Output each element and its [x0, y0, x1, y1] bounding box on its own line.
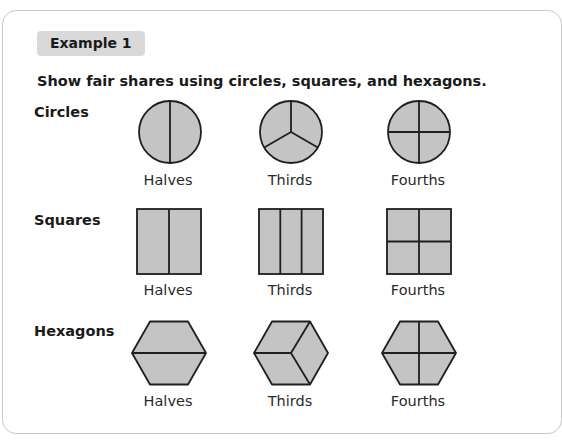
caption-hexagon-fourths: Fourths — [358, 393, 478, 409]
row-label-squares: Squares — [34, 212, 101, 228]
circle-fourths-shape — [386, 99, 452, 165]
caption-circle-fourths: Fourths — [358, 172, 478, 188]
caption-square-halves: Halves — [108, 282, 228, 298]
caption-hexagon-thirds: Thirds — [230, 393, 350, 409]
caption-circle-halves: Halves — [108, 172, 228, 188]
caption-square-thirds: Thirds — [230, 282, 350, 298]
instruction-text: Show fair shares using circles, squares,… — [37, 73, 487, 89]
hexagon-halves-shape — [131, 320, 207, 386]
row-label-circles: Circles — [34, 104, 89, 120]
circle-thirds-shape — [258, 99, 324, 165]
square-thirds-shape — [258, 208, 324, 276]
caption-hexagon-halves: Halves — [108, 393, 228, 409]
square-fourths-shape — [386, 208, 452, 276]
caption-circle-thirds: Thirds — [230, 172, 350, 188]
row-label-hexagons: Hexagons — [34, 323, 114, 339]
hexagon-fourths-shape — [381, 320, 457, 386]
circle-halves-shape — [137, 99, 203, 165]
hexagon-thirds-shape — [253, 320, 329, 386]
caption-square-fourths: Fourths — [358, 282, 478, 298]
square-halves-shape — [136, 208, 202, 276]
example-badge: Example 1 — [37, 31, 145, 56]
